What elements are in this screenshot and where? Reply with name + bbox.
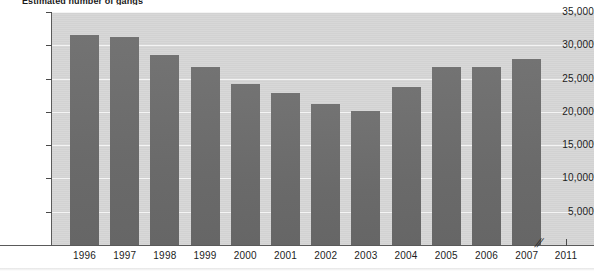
y-axis-tick bbox=[46, 45, 52, 46]
bar bbox=[432, 67, 461, 245]
bar bbox=[512, 59, 541, 245]
chart-title: Estimated number of gangs bbox=[22, 0, 143, 5]
x-axis-tick bbox=[566, 239, 567, 246]
bar bbox=[392, 87, 421, 245]
bar bbox=[70, 35, 99, 245]
x-axis-tick-label: 2007 bbox=[505, 250, 549, 261]
bar bbox=[231, 84, 260, 245]
bar bbox=[472, 67, 501, 245]
bar bbox=[191, 67, 220, 245]
x-axis-tick-label: 2003 bbox=[344, 250, 388, 261]
plot-area bbox=[52, 12, 594, 245]
y-axis-tick bbox=[46, 112, 52, 113]
x-axis-line bbox=[0, 245, 594, 246]
x-axis-tick-label: 1999 bbox=[183, 250, 227, 261]
y-axis-tick-label: 5,000 bbox=[548, 206, 594, 217]
bar bbox=[271, 93, 300, 245]
x-axis-tick-label: 2002 bbox=[304, 250, 348, 261]
x-axis-tick-label: 2001 bbox=[264, 250, 308, 261]
x-axis-tick-label: 2000 bbox=[223, 250, 267, 261]
y-axis-tick bbox=[46, 12, 52, 13]
y-axis-tick bbox=[46, 212, 52, 213]
bar bbox=[150, 55, 179, 245]
x-axis-tick-label: 2006 bbox=[465, 250, 509, 261]
y-axis-tick-label: 20,000 bbox=[548, 106, 594, 117]
y-axis-tick bbox=[46, 79, 52, 80]
bar bbox=[311, 104, 340, 245]
y-axis-tick bbox=[46, 145, 52, 146]
bar bbox=[110, 37, 139, 245]
x-axis-tick-label: 2011 bbox=[544, 250, 588, 261]
y-axis-tick-label: 30,000 bbox=[548, 39, 594, 50]
bar bbox=[351, 111, 380, 245]
y-axis-tick-label: 10,000 bbox=[548, 172, 594, 183]
bar-chart: Estimated number of gangs 35,00030,00025… bbox=[0, 0, 594, 271]
y-axis-tick-label: 25,000 bbox=[548, 73, 594, 84]
y-axis-tick-label: 35,000 bbox=[548, 6, 594, 17]
y-axis-tick-label: 15,000 bbox=[548, 139, 594, 150]
x-axis-tick-label: 2005 bbox=[424, 250, 468, 261]
x-axis-tick-label: 2004 bbox=[384, 250, 428, 261]
x-axis-tick-label: 1998 bbox=[143, 250, 187, 261]
x-axis-tick-label: 1997 bbox=[103, 250, 147, 261]
y-axis-tick bbox=[46, 178, 52, 179]
gridline bbox=[52, 12, 594, 13]
x-axis-tick-label: 1996 bbox=[63, 250, 107, 261]
